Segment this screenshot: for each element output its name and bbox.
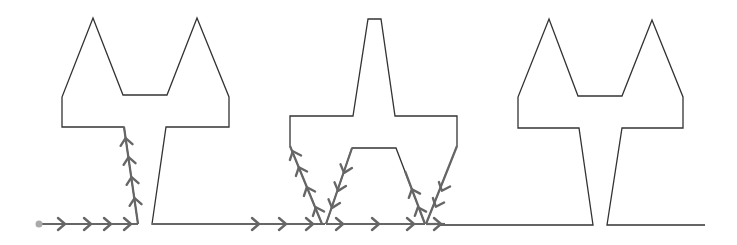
path-segment xyxy=(326,148,352,224)
center-spire-shape xyxy=(290,19,457,224)
shape-outlines xyxy=(62,18,705,225)
left-eared-shape xyxy=(62,18,325,224)
path-segment xyxy=(426,146,457,224)
right-eared-shape xyxy=(440,19,705,225)
traversal-path xyxy=(39,127,457,224)
start-point-dot xyxy=(36,221,43,228)
diagram-canvas xyxy=(0,0,737,245)
direction-arrows xyxy=(58,137,450,230)
path-segment xyxy=(290,146,322,224)
